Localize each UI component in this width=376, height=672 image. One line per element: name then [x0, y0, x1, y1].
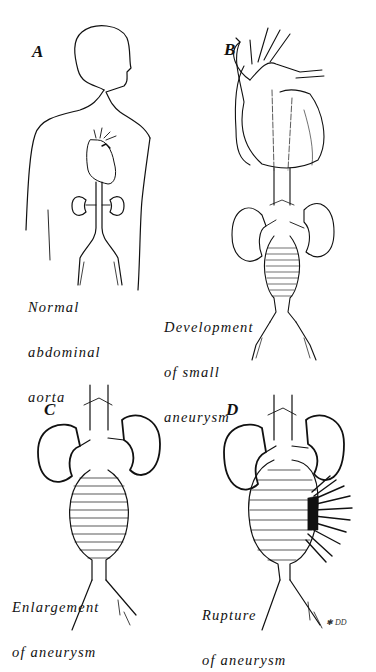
caption-b-line-1: Development [164, 320, 254, 335]
caption-a-line-3: aorta [28, 390, 101, 405]
caption-a-line-1: Normal [28, 300, 101, 315]
caption-a: Normal abdominal aorta [28, 270, 101, 420]
caption-c-line-1: Enlargement [12, 600, 100, 615]
caption-a-line-2: abdominal [28, 345, 101, 360]
caption-d-line-1: Rupture [202, 608, 286, 623]
caption-b-line-2: of small [164, 365, 254, 380]
rupture-bleed [306, 476, 352, 562]
caption-b: Development of small aneurysm [164, 290, 254, 440]
panel-letter-a: A [32, 42, 43, 62]
panel-a-drawing [26, 26, 150, 290]
caption-c: Enlargement of aneurysm [12, 570, 100, 672]
artist-signature: ✱ DD [326, 618, 347, 627]
panel-letter-b: B [224, 40, 235, 60]
caption-c-line-2: of aneurysm [12, 645, 100, 660]
caption-d: Rupture of aneurysm [202, 578, 286, 672]
caption-d-line-2: of aneurysm [202, 653, 286, 668]
caption-b-line-3: aneurysm [164, 410, 254, 425]
